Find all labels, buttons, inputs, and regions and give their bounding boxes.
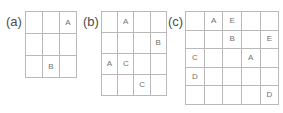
grid-c: AEBECADD (185, 11, 279, 105)
panel-c-label: (c) (168, 15, 183, 28)
grid-a: AB (25, 11, 77, 78)
grid-cell-empty[interactable] (134, 12, 150, 33)
grid-cell-empty[interactable] (102, 12, 118, 33)
grid-cell-filled[interactable]: E (223, 12, 242, 31)
grid-cell-empty[interactable] (43, 12, 60, 34)
grid-cell-empty[interactable] (261, 68, 280, 87)
grid-cell-empty[interactable] (102, 33, 118, 54)
grid-cell-filled[interactable]: A (60, 12, 77, 34)
grid-cell-filled[interactable]: A (205, 12, 224, 31)
grid-cell-empty[interactable] (151, 75, 167, 96)
grid-cell-filled[interactable]: A (102, 54, 118, 75)
grid-cell-filled[interactable]: D (261, 86, 280, 105)
grid-cell-filled[interactable]: C (186, 49, 205, 68)
grid-cell-empty[interactable] (186, 31, 205, 50)
grid-cell-empty[interactable] (205, 49, 224, 68)
panel-a: (a) AB (6, 11, 77, 78)
grid-cell-filled[interactable]: E (261, 31, 280, 50)
grid-cell-empty[interactable] (242, 86, 261, 105)
figure-canvas: (a) AB (b) ABACC (c) AEBECADD (0, 0, 283, 113)
grid-cell-empty[interactable] (26, 12, 43, 34)
grid-cell-empty[interactable] (261, 49, 280, 68)
grid-b: ABACC (101, 11, 167, 96)
grid-cell-empty[interactable] (242, 68, 261, 87)
grid-cell-filled[interactable]: B (151, 33, 167, 54)
grid-cell-filled[interactable]: D (186, 68, 205, 87)
grid-cell-empty[interactable] (205, 86, 224, 105)
panel-b: (b) ABACC (83, 11, 167, 96)
grid-cell-empty[interactable] (43, 34, 60, 56)
grid-cell-empty[interactable] (118, 33, 134, 54)
grid-cell-empty[interactable] (186, 86, 205, 105)
grid-cell-empty[interactable] (186, 12, 205, 31)
grid-cell-filled[interactable]: C (118, 54, 134, 75)
grid-cell-empty[interactable] (242, 31, 261, 50)
grid-cell-empty[interactable] (151, 12, 167, 33)
grid-cell-empty[interactable] (205, 68, 224, 87)
grid-cell-empty[interactable] (223, 68, 242, 87)
panel-a-label: (a) (6, 15, 22, 28)
grid-cell-filled[interactable]: B (223, 31, 242, 50)
grid-cell-filled[interactable]: A (242, 49, 261, 68)
grid-cell-empty[interactable] (205, 31, 224, 50)
grid-cell-filled[interactable]: B (43, 56, 60, 78)
watermark (28, 86, 138, 106)
grid-cell-empty[interactable] (223, 49, 242, 68)
panel-b-label: (b) (83, 15, 99, 28)
grid-cell-empty[interactable] (261, 12, 280, 31)
grid-cell-empty[interactable] (26, 34, 43, 56)
grid-cell-empty[interactable] (60, 56, 77, 78)
grid-cell-empty[interactable] (60, 34, 77, 56)
grid-cell-empty[interactable] (26, 56, 43, 78)
grid-cell-empty[interactable] (151, 54, 167, 75)
grid-cell-empty[interactable] (242, 12, 261, 31)
grid-cell-empty[interactable] (223, 86, 242, 105)
grid-cell-filled[interactable]: A (118, 12, 134, 33)
panel-c: (c) AEBECADD (168, 11, 279, 105)
grid-cell-empty[interactable] (134, 54, 150, 75)
grid-cell-empty[interactable] (134, 33, 150, 54)
